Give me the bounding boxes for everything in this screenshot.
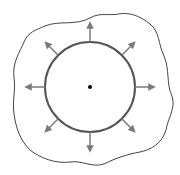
arrow-up-right-icon xyxy=(122,44,133,55)
arrow-down-right-icon xyxy=(122,119,133,130)
arrow-up-left-icon xyxy=(47,44,58,55)
outer-wavy-boundary xyxy=(13,13,173,165)
center-dot xyxy=(88,85,92,89)
radial-expansion-diagram xyxy=(0,0,180,175)
arrow-down-left-icon xyxy=(47,119,58,130)
